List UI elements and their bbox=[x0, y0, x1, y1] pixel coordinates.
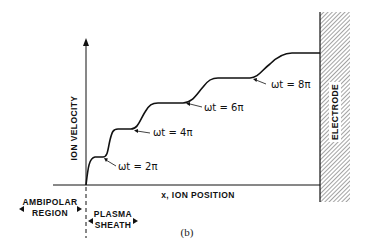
annotation-8pi: ωt = 8π bbox=[253, 78, 310, 90]
electrode-label: ELECTRODE bbox=[330, 84, 340, 140]
y-axis-label: ION VELOCITY bbox=[69, 96, 79, 161]
right-arrow-icon bbox=[77, 206, 82, 212]
ambipolar-line2: REGION bbox=[32, 208, 68, 218]
ion-velocity-diagram: ELECTRODE ION VELOCITY x, ION POSITION ω… bbox=[0, 0, 366, 249]
y-axis-arrow-icon bbox=[83, 38, 89, 46]
annotation-label: ωt = 2π bbox=[118, 161, 157, 172]
right-arrow-icon bbox=[133, 218, 138, 224]
annotation-arrow-icon bbox=[253, 78, 257, 82]
annotation-label: ωt = 4π bbox=[153, 127, 192, 138]
sheath-line2: SHEATH bbox=[95, 220, 132, 230]
annotation-arrow-icon bbox=[104, 158, 108, 162]
left-arrow-icon bbox=[88, 218, 93, 224]
annotation-label: ωt = 6π bbox=[204, 102, 243, 113]
sheath-line1: PLASMA bbox=[94, 209, 132, 219]
annotation-4pi: ωt = 4π bbox=[134, 127, 192, 138]
annotation-2pi: ωt = 2π bbox=[104, 158, 157, 172]
ambipolar-line1: AMBIPOLAR bbox=[22, 197, 77, 207]
electrode: ELECTRODE bbox=[320, 12, 350, 202]
annotation-6pi: ωt = 6π bbox=[186, 102, 243, 113]
annotation-arrow-icon bbox=[134, 129, 138, 133]
x-axis: x, ION POSITION bbox=[53, 185, 320, 200]
annotation-label: ωt = 8π bbox=[271, 79, 310, 90]
plasma-sheath-label: PLASMA SHEATH bbox=[88, 209, 138, 230]
y-axis: ION VELOCITY bbox=[69, 38, 89, 185]
ambipolar-region-label: AMBIPOLAR REGION bbox=[19, 197, 82, 218]
figure-caption: (b) bbox=[181, 226, 194, 239]
x-axis-label: x, ION POSITION bbox=[161, 190, 235, 200]
